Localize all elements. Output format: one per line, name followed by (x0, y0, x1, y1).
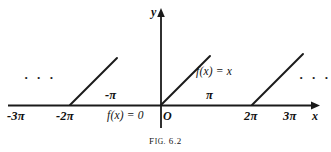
x-tick-label-minus-pi: -π (105, 89, 116, 102)
caption-number: 6.2 (169, 136, 182, 146)
origin-label: O (163, 110, 172, 122)
x-tick-label-three-pi: 3π (283, 110, 296, 123)
rising-segment-right (252, 54, 303, 105)
y-axis-label: y (151, 6, 157, 18)
figure-container: · · · · · · f(x) = x f(x) = 0 y x O -3π … (0, 0, 331, 152)
ellipsis-left: · · · (24, 71, 56, 84)
x-tick-label-pi: π (206, 89, 213, 102)
identity-branch-label: f(x) = x (196, 66, 232, 78)
x-tick-label-minus-two-pi: -2π (56, 110, 74, 123)
ellipsis-right: · · · (299, 71, 331, 84)
x-tick-label-minus-three-pi: -3π (7, 110, 25, 123)
zero-branch-label: f(x) = 0 (107, 110, 144, 122)
rising-segment-center (161, 56, 210, 105)
x-axis-label: x (312, 110, 318, 122)
figure-caption: FIG. 6.2 (0, 136, 331, 146)
y-axis-arrowhead (157, 8, 165, 17)
x-tick-label-two-pi: 2π (244, 110, 257, 123)
caption-smallcaps: IG. (155, 137, 166, 146)
